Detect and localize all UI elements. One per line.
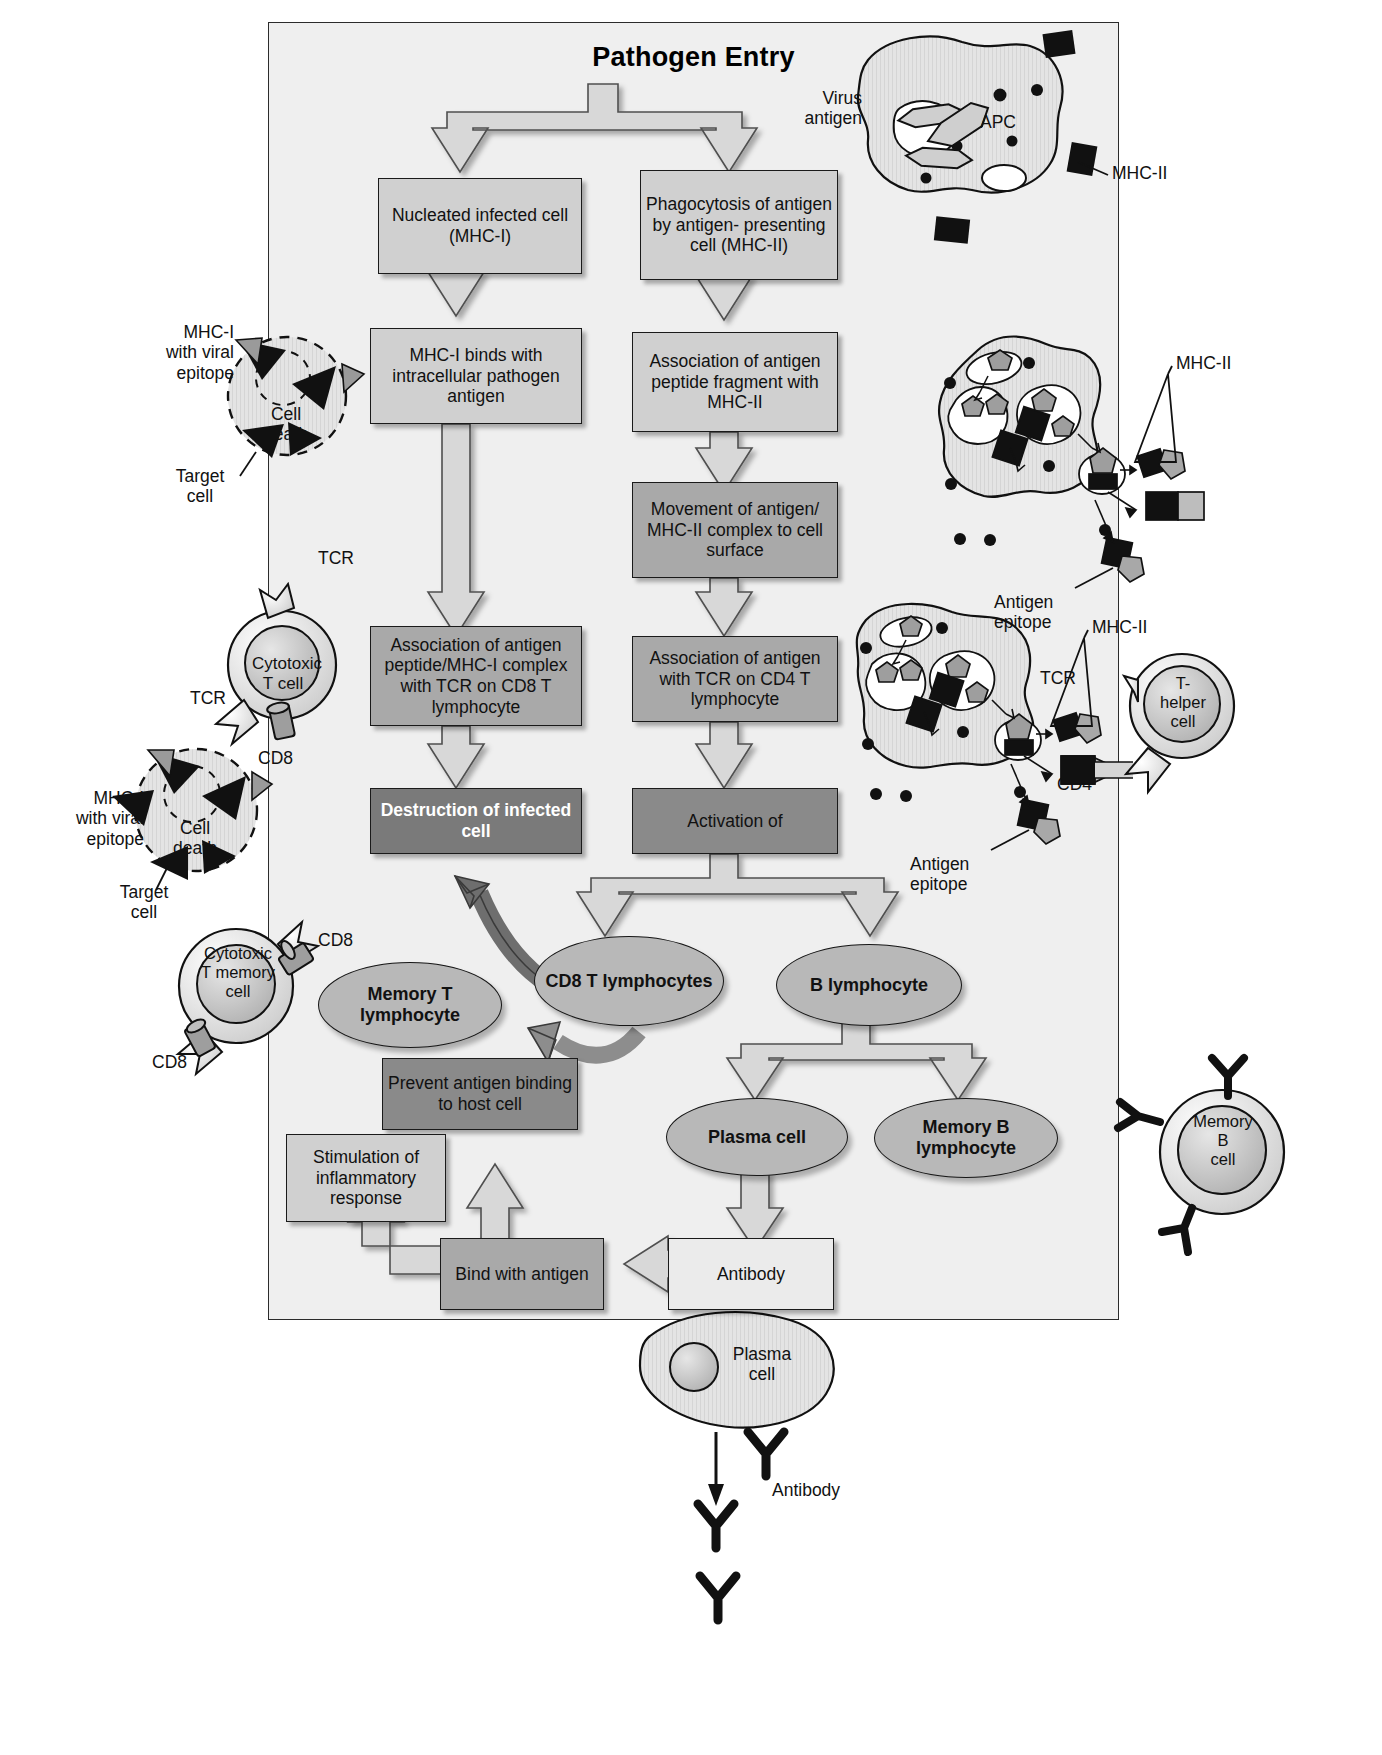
label-cytotoxic-t-cell: Cytotoxic T cell xyxy=(252,654,314,693)
label-cd8-memory-bottom: CD8 xyxy=(152,1052,212,1072)
label-target-cell-top: Target cell xyxy=(160,466,240,507)
label-apc-middle-mhc2: MHC-II xyxy=(1176,353,1276,373)
figure-title: Pathogen Entry xyxy=(268,42,1119,73)
ellipse-cd8-t-lymphocytes: CD8 T lymphocytes xyxy=(534,936,724,1026)
box-antibody: Antibody xyxy=(668,1238,834,1310)
label-virus-antigen: Virus antigen xyxy=(770,88,862,129)
box-mhc1-binds: MHC-I binds with intracellular pathogen … xyxy=(370,328,582,424)
label-cd8-memory-top: CD8 xyxy=(318,930,378,950)
box-nucleated-infected-cell: Nucleated infected cell (MHC-I) xyxy=(378,178,582,274)
label-tcr-left: TCR xyxy=(178,688,238,708)
label-apc-middle-antigen-epitope: Antigen epitope xyxy=(994,592,1094,633)
box-association-tcr-cd4: Association of antigen with TCR on CD4 T… xyxy=(632,636,838,722)
ellipse-plasma-cell: Plasma cell xyxy=(666,1098,848,1176)
box-movement-complex: Movement of antigen/ MHC-II complex to c… xyxy=(632,482,838,578)
box-activation-of: Activation of xyxy=(632,788,838,854)
box-association-tcr-cd8: Association of antigen peptide/MHC-I com… xyxy=(370,626,582,726)
ellipse-memory-t-lymphocyte: Memory T lymphocyte xyxy=(318,962,502,1048)
label-cell-death-top: Cell death xyxy=(249,404,323,445)
label-apc-mhc2: MHC-II xyxy=(1112,163,1212,183)
box-prevent-antigen-binding: Prevent antigen binding to host cell xyxy=(382,1058,578,1130)
label-t-helper-cell: T- helper cell xyxy=(1150,674,1216,731)
label-antibody-bottom: Antibody xyxy=(772,1480,882,1500)
label-plasma-cell-bottom: Plasma cell xyxy=(716,1344,808,1385)
label-apc-lower-antigen-epitope: Antigen epitope xyxy=(910,854,1010,895)
label-memory-b-cell: Memory B cell xyxy=(1180,1112,1266,1169)
label-cell-death-bottom: Cell death xyxy=(158,818,232,859)
label-tcr-top: TCR xyxy=(306,548,366,568)
box-association-peptide-mhc2: Association of antigen peptide fragment … xyxy=(632,332,838,432)
figure-canvas: Pathogen Entry xyxy=(0,0,1382,1755)
ellipse-b-lymphocyte: B lymphocyte xyxy=(776,944,962,1026)
ellipse-memory-b-lymphocyte: Memory B lymphocyte xyxy=(874,1098,1058,1178)
label-cytotoxic-t-memory-cell: Cytotoxic T memory cell xyxy=(196,944,280,1001)
label-target-cell-bottom: Target cell xyxy=(104,882,184,923)
label-apc-lower-tcr: TCR xyxy=(1040,668,1100,688)
label-mhc1-viral-epitope-top: MHC-I with viral epitope xyxy=(128,322,234,383)
label-cd8-cytotoxic: CD8 xyxy=(258,748,318,768)
box-phagocytosis: Phagocytosis of antigen by antigen- pres… xyxy=(640,170,838,280)
label-apc-lower-mhc2: MHC-II xyxy=(1092,617,1192,637)
box-bind-with-antigen: Bind with antigen xyxy=(440,1238,604,1310)
box-stimulation-inflammatory: Stimulation of inflammatory response xyxy=(286,1134,446,1222)
label-cd4: CD4 xyxy=(1057,774,1117,794)
box-destruction-infected-cell: Destruction of infected cell xyxy=(370,788,582,854)
label-apc: APC xyxy=(962,112,1034,132)
label-mhc1-viral-epitope-bottom: MHC-I with viral epitope xyxy=(38,788,144,849)
